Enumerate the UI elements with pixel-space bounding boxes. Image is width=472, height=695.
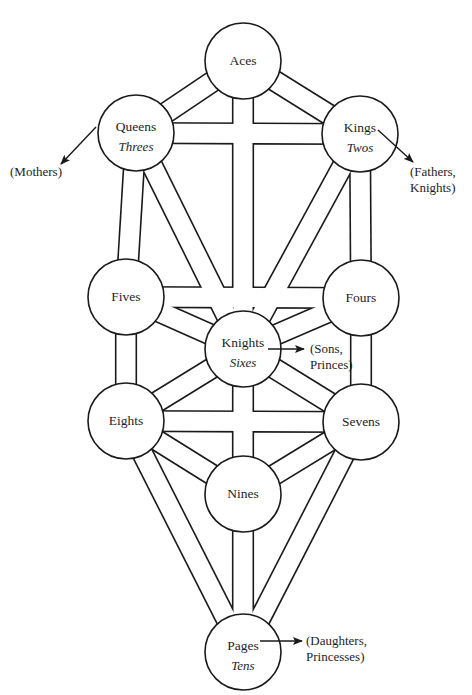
node-fives: Fives <box>88 259 164 335</box>
annotation-text: (Daughters, <box>306 633 367 648</box>
annotation-fathers: (Fathers,Knights) <box>378 130 456 195</box>
node-label: Sevens <box>342 414 380 429</box>
node-pages: PagesTens <box>205 614 281 690</box>
node-sublabel: Threes <box>119 139 154 154</box>
node-label: Queens <box>116 119 157 134</box>
node-label: Fives <box>111 289 140 304</box>
node-label: Nines <box>227 486 259 501</box>
annotation-text: (Fathers, <box>410 164 456 179</box>
annotation-text: Princes) <box>310 357 353 372</box>
annotation-text: Princesses) <box>306 649 365 664</box>
node-label: Pages <box>227 638 259 653</box>
node-eights: Eights <box>88 383 164 459</box>
node-label: Aces <box>230 53 257 68</box>
node-aces: Aces <box>205 23 281 99</box>
node-sublabel: Twos <box>347 140 374 155</box>
node-sublabel: Sixes <box>230 355 257 370</box>
node-fours: Fours <box>323 260 399 336</box>
node-sevens: Sevens <box>323 384 399 460</box>
annotation-text: (Mothers) <box>10 164 62 179</box>
annotation-text: Knights) <box>410 180 456 195</box>
node-nines: Nines <box>205 456 281 532</box>
node-label: Fours <box>346 290 377 305</box>
node-label: Knights <box>222 335 265 350</box>
node-queens: QueensThrees <box>98 95 174 171</box>
annotation-mothers: (Mothers) <box>10 127 96 179</box>
annotation-text: (Sons, <box>310 341 343 356</box>
arrow-icon <box>61 127 96 164</box>
tree-of-life-diagram: AcesQueensThreesKingsTwosFivesFoursKnigh… <box>0 0 472 695</box>
node-sublabel: Tens <box>231 658 254 673</box>
node-kings: KingsTwos <box>322 96 398 172</box>
node-label: Eights <box>109 413 144 428</box>
node-label: Kings <box>344 120 376 135</box>
